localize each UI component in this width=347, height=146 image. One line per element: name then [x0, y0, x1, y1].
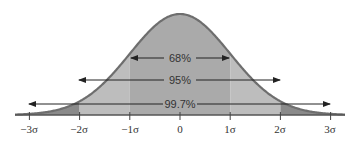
normal-distribution-chart: 68% 95% 99.7% −3σ −2σ −1σ 0 1σ 2σ 3σ	[0, 0, 347, 146]
tick-label-minus-1-sigma: −1σ	[121, 123, 139, 135]
label-95-percent: 95%	[169, 74, 191, 86]
label-68-percent: 68%	[169, 52, 191, 64]
tick-label-minus-2-sigma: −2σ	[70, 123, 88, 135]
tick-label-plus-1-sigma: 1σ	[224, 123, 236, 135]
tick-label-plus-2-sigma: 2σ	[274, 123, 286, 135]
tick-label-minus-3-sigma: −3σ	[20, 123, 38, 135]
tick-label-zero: 0	[177, 123, 183, 135]
tick-label-plus-3-sigma: 3σ	[324, 123, 336, 135]
label-99-7-percent: 99.7%	[164, 98, 195, 110]
